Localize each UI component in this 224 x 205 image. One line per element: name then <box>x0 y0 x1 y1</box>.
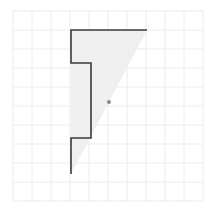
center-point <box>107 100 111 104</box>
diagram-canvas <box>0 0 224 205</box>
